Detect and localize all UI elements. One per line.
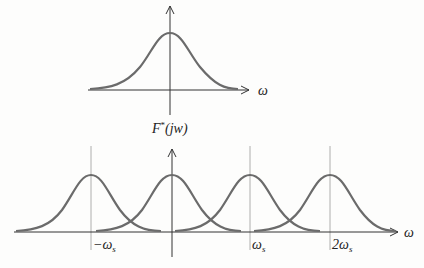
- tick-prefix: −ω: [93, 237, 112, 252]
- diagram-graphics: [0, 0, 424, 268]
- top-x-axis-label: ω: [258, 84, 268, 98]
- spectrum-replica-0: [96, 175, 241, 231]
- tick-label-ws: ωs: [252, 238, 265, 254]
- tick-sub: s: [112, 244, 116, 254]
- y-label-main: F: [152, 121, 161, 136]
- tick-sub: s: [349, 244, 353, 254]
- tick-label-2ws: 2ωs: [332, 238, 352, 254]
- spectrum-replica-neg-ws: [16, 175, 161, 231]
- top-spectrum-curve: [90, 33, 238, 89]
- tick-sub: s: [262, 244, 266, 254]
- bottom-x-axis-label: ω: [404, 226, 414, 240]
- y-label-arg: (jw): [165, 121, 188, 136]
- tick-prefix: 2ω: [332, 237, 349, 252]
- tick-label-neg-ws: −ωs: [93, 238, 116, 254]
- top-plot: [88, 6, 249, 115]
- sampling-spectrum-diagram: ω F*(jw) ω −ωs ωs 2ωs: [0, 0, 424, 268]
- tick-prefix: ω: [252, 237, 262, 252]
- bottom-y-axis-label: F*(jw): [152, 121, 188, 136]
